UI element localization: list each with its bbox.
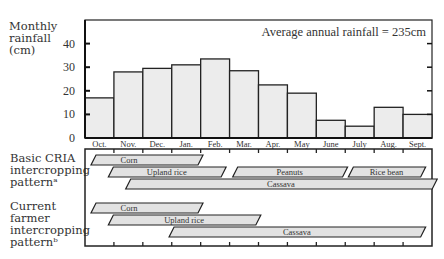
crop-label: Cassava [267, 179, 295, 189]
month-label: Feb. [208, 139, 223, 149]
month-label: Nov. [120, 139, 136, 149]
bar-11 [374, 107, 403, 138]
bar-2 [114, 72, 143, 138]
bar-6 [230, 71, 259, 138]
bar-1 [85, 98, 114, 138]
bar-8 [287, 93, 316, 138]
annual-rainfall-annotation: Average annual rainfall = 235cm [262, 25, 427, 39]
crop-label: Peanuts [276, 167, 302, 177]
y-tick-label: 0 [69, 131, 75, 145]
bar-3 [143, 68, 172, 138]
crop-label: Corn [121, 203, 139, 213]
crop-label: Cassava [283, 227, 311, 237]
y-tick-label: 40 [63, 37, 75, 51]
y-tick-label: 10 [63, 107, 75, 121]
bar-10 [345, 126, 374, 138]
crop-bar-corn [91, 155, 203, 165]
bar-5 [201, 59, 230, 138]
month-label: Sept. [409, 139, 426, 149]
bar-4 [172, 65, 201, 138]
crop-label: Corn [121, 155, 139, 165]
month-label: Jan. [179, 139, 192, 149]
crop-bar-corn [91, 203, 203, 213]
month-label: Mar. [236, 139, 252, 149]
y-tick-label: 30 [63, 60, 75, 74]
month-label: Dec. [149, 139, 165, 149]
crop-label: Rice bean [370, 167, 404, 177]
bar-9 [316, 120, 345, 138]
month-label: June [323, 139, 339, 149]
y-tick-label: 20 [63, 84, 75, 98]
crop-label: Upland rice [164, 215, 204, 225]
month-label: Aug. [380, 139, 397, 149]
month-label: Oct. [92, 139, 106, 149]
rainfall-chart: 010203040Average annual rainfall = 235cm… [0, 0, 444, 259]
month-label: July [353, 139, 368, 149]
month-label: Apr. [266, 139, 281, 149]
crop-label: Upland rice [147, 167, 187, 177]
bar-12 [403, 114, 432, 138]
month-label: May [294, 139, 310, 149]
bar-7 [259, 85, 288, 138]
